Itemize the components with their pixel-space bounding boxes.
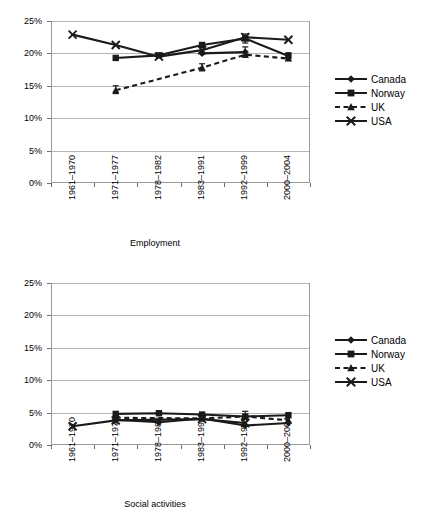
axis-title-employment: Employment	[0, 238, 310, 248]
legend-marker-triangle-icon	[334, 362, 368, 374]
figure-root: 0%5%10%15%20%25% 1961–19701971–19771978–…	[0, 0, 424, 522]
data-point-norway	[113, 55, 119, 61]
data-point-norway	[156, 410, 162, 416]
legend-item-uk[interactable]: UK	[334, 100, 406, 114]
legend-label: UK	[371, 102, 385, 113]
legend-marker-triangle-icon	[334, 101, 368, 113]
employment-chart: 0%5%10%15%20%25% 1961–19701971–19771978–…	[0, 0, 424, 261]
axis-title-social-activities: Social activities	[0, 499, 310, 509]
legend-marker-cross-icon	[334, 376, 368, 388]
legend-label: UK	[371, 363, 385, 374]
legend-employment: CanadaNorwayUKUSA	[334, 72, 406, 128]
series-line-usa	[73, 35, 289, 57]
legend-label: Canada	[371, 335, 406, 346]
legend-label: USA	[371, 377, 392, 388]
legend-marker-cross-icon	[334, 115, 368, 127]
legend-item-norway[interactable]: Norway	[334, 86, 406, 100]
legend-marker-diamond-icon	[334, 334, 368, 346]
series-line-uk	[116, 55, 289, 91]
series-canvas-employment	[0, 0, 424, 261]
legend-item-canada[interactable]: Canada	[334, 333, 406, 347]
legend-social-activities: CanadaNorwayUKUSA	[334, 333, 406, 389]
series-canvas-social-activities	[0, 261, 424, 522]
legend-marker-diamond-icon	[334, 73, 368, 85]
legend-item-uk[interactable]: UK	[334, 361, 406, 375]
legend-marker-square-icon	[334, 87, 368, 99]
legend-item-canada[interactable]: Canada	[334, 72, 406, 86]
legend-item-usa[interactable]: USA	[334, 375, 406, 389]
social-activities-chart: 0%5%10%15%20%25% 1961–19701971–19771978–…	[0, 261, 424, 522]
legend-marker-square-icon	[334, 348, 368, 360]
legend-item-norway[interactable]: Norway	[334, 347, 406, 361]
legend-label: Norway	[371, 88, 405, 99]
legend-item-usa[interactable]: USA	[334, 114, 406, 128]
series-line-canada	[202, 52, 245, 53]
legend-label: USA	[371, 116, 392, 127]
legend-label: Canada	[371, 74, 406, 85]
legend-label: Norway	[371, 349, 405, 360]
